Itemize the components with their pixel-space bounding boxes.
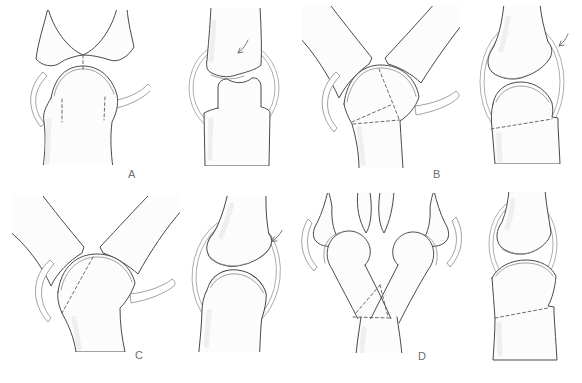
panel-a-lateral-svg bbox=[182, 8, 287, 166]
panel-label-b: B bbox=[433, 168, 441, 180]
panel-c-lateral-drawing bbox=[182, 196, 292, 352]
shaft bbox=[352, 317, 402, 353]
panel-d-frontal-svg bbox=[298, 193, 473, 353]
proximal-bone bbox=[58, 254, 135, 352]
panel-a: A bbox=[0, 0, 291, 191]
panel-b-frontal-svg bbox=[302, 6, 460, 168]
panel-a-lateral-drawing bbox=[182, 8, 287, 166]
panel-label-a: A bbox=[128, 168, 136, 180]
panel-b-frontal-drawing bbox=[302, 6, 460, 168]
proximal-bone bbox=[344, 65, 419, 168]
proximal-bone bbox=[197, 267, 268, 352]
panel-a-frontal-drawing bbox=[15, 10, 150, 165]
panel-label-d: D bbox=[418, 350, 426, 362]
panel-c-frontal-svg bbox=[12, 196, 180, 352]
direction-arrow-icon bbox=[559, 34, 568, 46]
proximal-bone bbox=[204, 78, 270, 166]
distal-bone bbox=[36, 10, 134, 66]
direction-arrow-icon bbox=[272, 230, 282, 243]
proximal-bone bbox=[492, 260, 557, 360]
distal-bone bbox=[497, 192, 551, 254]
panel-c-lateral-svg bbox=[182, 196, 292, 352]
split-condyles bbox=[324, 231, 437, 323]
panel-d-lateral-drawing bbox=[472, 192, 577, 362]
panel-label-c: C bbox=[135, 349, 143, 361]
panel-c: C bbox=[0, 191, 291, 383]
distal-bone bbox=[205, 196, 277, 270]
figure-canvas: A bbox=[0, 0, 582, 383]
panel-d: D bbox=[291, 191, 582, 383]
panel-b-lateral-svg bbox=[462, 6, 577, 164]
panel-c-frontal-drawing bbox=[12, 196, 180, 352]
panel-b: B bbox=[291, 0, 582, 191]
panel-b-lateral-drawing bbox=[462, 6, 577, 164]
distal-bone bbox=[488, 6, 552, 79]
distal-bone bbox=[207, 8, 262, 79]
panel-d-frontal-drawing bbox=[298, 193, 473, 353]
panel-d-lateral-svg bbox=[472, 192, 577, 362]
panel-a-frontal-svg bbox=[15, 10, 150, 165]
proximal-bone bbox=[43, 66, 118, 165]
